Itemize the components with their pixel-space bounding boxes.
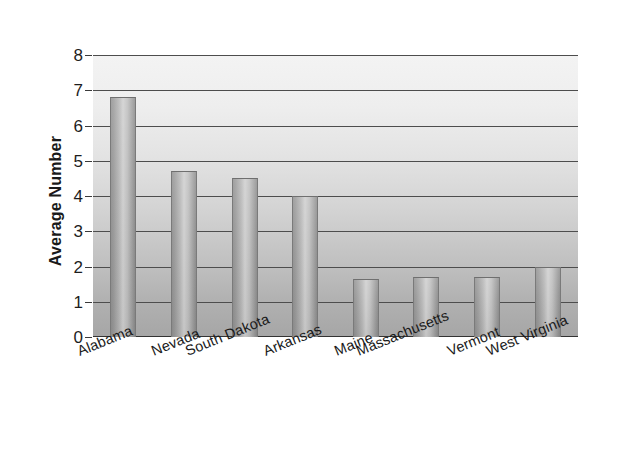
y-tick-label: 4: [74, 188, 83, 205]
y-tick-label: 1: [74, 293, 83, 310]
gridline-5: [93, 161, 578, 162]
y-axis-title: Average Number: [47, 101, 65, 301]
bar: [171, 171, 197, 337]
y-tick-mark: [85, 267, 92, 268]
y-tick-label: 6: [74, 117, 83, 134]
bar-chart: Average Number 876543210 AlabamaNevadaSo…: [0, 0, 617, 464]
y-tick-mark: [85, 196, 92, 197]
gridline-3: [93, 231, 578, 232]
gridline-6: [93, 126, 578, 127]
bar: [232, 178, 258, 337]
y-tick-mark: [85, 302, 92, 303]
y-tick-mark: [85, 231, 92, 232]
y-tick-label: 8: [74, 47, 83, 64]
y-tick-mark: [85, 55, 92, 56]
y-tick-mark: [85, 126, 92, 127]
bar: [292, 196, 318, 337]
gridline-8: [93, 55, 578, 56]
y-tick-mark: [85, 90, 92, 91]
y-tick-label: 2: [74, 258, 83, 275]
bar: [353, 279, 379, 337]
plot-area: 876543210: [93, 55, 578, 337]
y-tick-label: 7: [74, 82, 83, 99]
y-tick-mark: [85, 161, 92, 162]
bar: [110, 97, 136, 337]
gridline-2: [93, 267, 578, 268]
gridline-1: [93, 302, 578, 303]
gridline-4: [93, 196, 578, 197]
gridline-7: [93, 90, 578, 91]
y-tick-label: 3: [74, 223, 83, 240]
y-tick-label: 5: [74, 152, 83, 169]
